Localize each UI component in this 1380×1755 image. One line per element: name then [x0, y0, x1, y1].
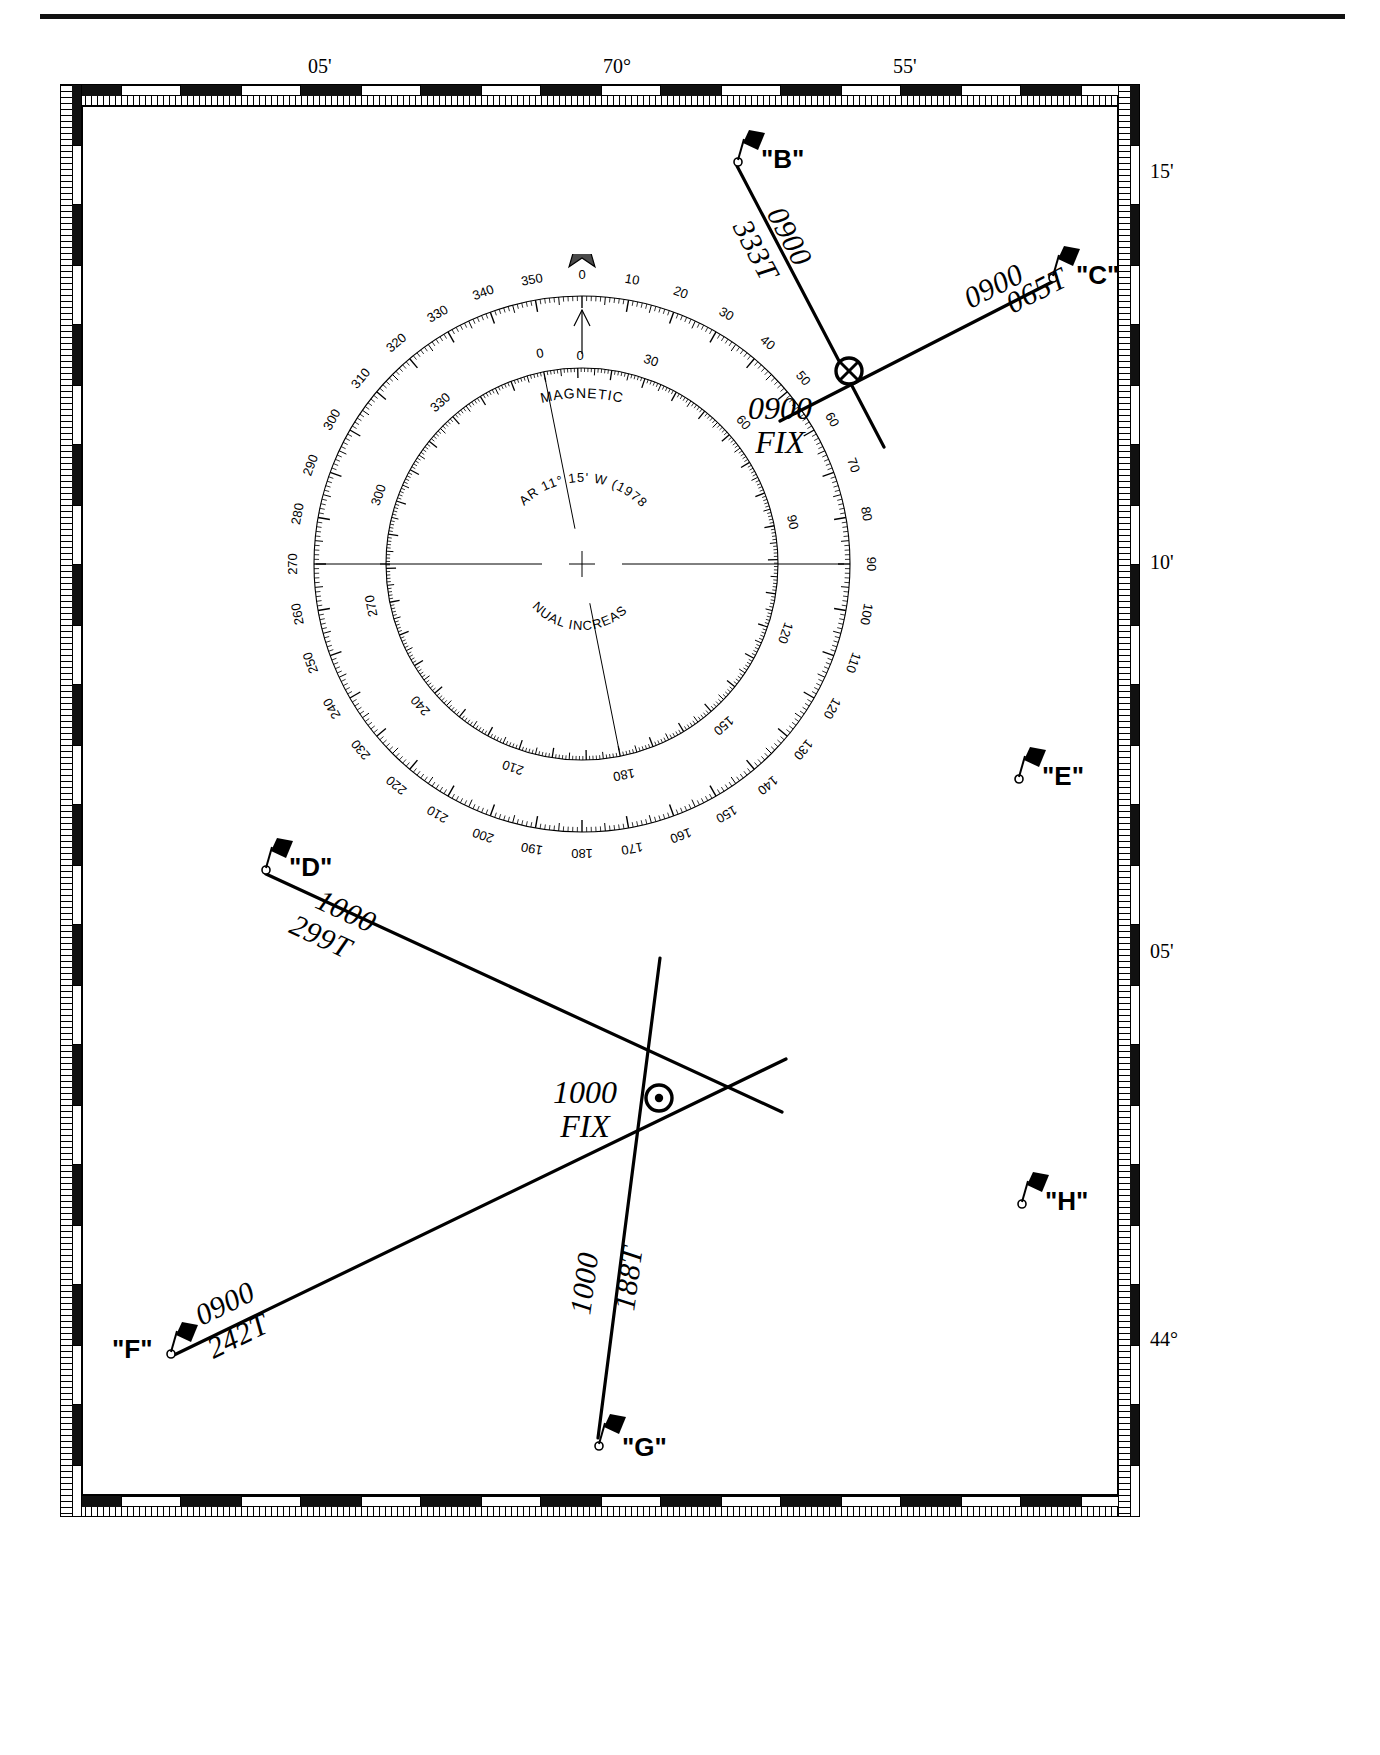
magnetic-ring-tick-label: 180: [612, 765, 636, 784]
scale-block: [72, 1465, 82, 1517]
true-ring-tick-label: 270: [285, 553, 300, 575]
scale-block: [781, 1496, 841, 1507]
true-ring-tick-label: 210: [424, 802, 450, 826]
buoy-marker: "F": [170, 1352, 171, 1353]
scale-ticks: [61, 96, 1140, 106]
magnetic-ring-tick-label: 210: [500, 757, 525, 778]
scale-block: [72, 385, 82, 445]
scale-block: [841, 85, 901, 96]
true-ring-tick-label: 50: [793, 368, 814, 389]
magnetic-ring-tick-label: 300: [368, 482, 389, 507]
scale-block: [1130, 505, 1140, 565]
scale-block: [72, 1105, 82, 1165]
buoy-marker: "E": [1018, 777, 1019, 778]
true-north-arrow-icon: 0: [574, 310, 590, 363]
true-ring-tick-label: 260: [288, 602, 307, 626]
scale-block: [72, 505, 82, 565]
magnetic-ring-tick-label: 240: [408, 693, 434, 719]
scale-block: [72, 1285, 82, 1345]
true-ring-tick-label: 90: [864, 557, 879, 571]
compass-rose: 0102030405060708090100110120130140150160…: [272, 254, 892, 874]
scale-block: [72, 1225, 82, 1285]
scale-block: [1130, 625, 1140, 685]
scale-block: [241, 85, 301, 96]
true-ring-tick-label: 310: [348, 365, 373, 391]
true-ring-tick-label: 30: [717, 304, 737, 324]
buoy-marker: "D": [265, 868, 266, 869]
magnetic-zero-label: 0: [576, 348, 583, 363]
scale-block: [541, 1496, 601, 1507]
buoy-label-e: "E": [1042, 761, 1084, 792]
scale-block: [181, 1496, 241, 1507]
scale-block: [1130, 805, 1140, 865]
true-ring-tick-label: 340: [470, 282, 496, 304]
buoy-label-h: "H": [1045, 1186, 1088, 1217]
north-star-icon: [561, 254, 603, 267]
scale-ticks: [1119, 85, 1130, 1517]
longitude-label: 55': [893, 55, 917, 78]
scale-block: [1130, 1405, 1140, 1465]
scale-block: [241, 1496, 301, 1507]
scale-block: [72, 865, 82, 925]
border-scale-bottom: [60, 1495, 1140, 1517]
magnetic-ring-tick-label: 120: [775, 620, 796, 645]
magnetic-ring-tick-label: 0: [535, 345, 545, 361]
buoy-marker: "B": [737, 160, 738, 161]
magnetic-ring-tick-label: 150: [711, 713, 737, 739]
true-ring-tick-label: 250: [300, 650, 322, 676]
true-ring-tick-label: 170: [620, 839, 644, 858]
scale-block: [961, 1496, 1021, 1507]
compass-rose-graphic: 0102030405060708090100110120130140150160…: [272, 254, 892, 874]
true-ring-tick-label: 160: [668, 825, 694, 847]
scale-block: [1130, 1285, 1140, 1345]
scale-block: [901, 85, 961, 96]
scale-block: [1130, 745, 1140, 805]
true-ring-tick-label: 120: [820, 695, 844, 721]
chart-page: 05'70°55' 15'10'05'44° 01020304050607080…: [0, 0, 1380, 1755]
scale-block: [72, 685, 82, 745]
scale-block: [72, 265, 82, 325]
scale-block: [721, 1496, 781, 1507]
true-ring-tick-label: 330: [424, 302, 450, 326]
fix-word: FIX: [748, 426, 812, 460]
border-scale-left: [60, 84, 82, 1517]
scale-block: [361, 1496, 421, 1507]
buoy-label-b: "B": [761, 144, 804, 175]
true-ring-tick-label: 280: [288, 502, 307, 526]
true-ring-tick-label: 100: [857, 602, 876, 626]
scale-block: [181, 85, 241, 96]
scale-block: [121, 1496, 181, 1507]
scale-block: [1130, 865, 1140, 925]
scale-block: [1130, 925, 1140, 985]
scale-block: [1130, 1225, 1140, 1285]
buoy-label-d: "D": [289, 852, 332, 883]
true-ring-tick-label: 300: [320, 406, 344, 432]
scale-block: [721, 85, 781, 96]
true-ring-tick-label: 110: [843, 651, 864, 676]
true-ring-tick-label: 20: [672, 283, 691, 302]
scale-block: [72, 985, 82, 1045]
scale-block: [72, 805, 82, 865]
scale-ticks: [61, 85, 72, 1517]
scale-block: [541, 85, 601, 96]
scale-block: [72, 205, 82, 265]
true-ring-tick-label: 180: [571, 846, 593, 861]
scale-block: [1130, 265, 1140, 325]
magnetic-ring-tick-label: 270: [362, 594, 381, 618]
scale-block: [601, 1496, 661, 1507]
magnetic-label: MAGNETIC: [539, 385, 626, 406]
fix-word: FIX: [553, 1110, 617, 1144]
scale-block: [841, 1496, 901, 1507]
latitude-label: 10': [1150, 551, 1174, 574]
scale-block: [661, 85, 721, 96]
scale-block: [1130, 325, 1140, 385]
scale-block: [72, 1345, 82, 1405]
scale-block: [601, 85, 661, 96]
fix-time: 0900: [748, 392, 812, 426]
scale-block: [72, 745, 82, 805]
true-ring-tick-label: 350: [520, 270, 544, 289]
scale-block: [661, 1496, 721, 1507]
scale-ticks: [61, 1507, 1140, 1517]
scale-block: [72, 1045, 82, 1105]
true-ring-tick-label: 0: [578, 267, 585, 282]
